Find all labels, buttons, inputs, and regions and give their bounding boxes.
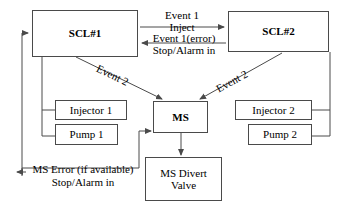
node-ms-divert-valve-label-line2: Valve [171,179,196,191]
edge-label-ms-error: MS Error (if available) [26,163,140,175]
node-ms-divert-valve-label-line1: MS Divert [160,167,207,179]
node-injector2[interactable]: Injector 2 [235,100,312,120]
edge-label-stop-alarm-in-top: Stop/Alarm in [144,44,224,56]
connector-left-bus-to-scl1 [22,33,28,172]
node-ms-divert-valve[interactable]: MS Divert Valve [145,157,222,201]
node-injector2-label: Injector 2 [252,104,294,116]
node-injector1-label: Injector 1 [70,104,112,116]
edge-label-stop-alarm-in-bottom: Stop/Alarm in [26,176,140,188]
edge-label-event1-error: Event 1(error) [144,32,224,44]
node-pump1[interactable]: Pump 1 [55,124,118,145]
node-scl2-label: SCL#2 [262,25,294,37]
node-pump2[interactable]: Pump 2 [248,124,312,145]
node-ms[interactable]: MS [153,101,208,133]
node-scl2[interactable]: SCL#2 [228,11,329,52]
node-scl1[interactable]: SCL#1 [32,10,138,57]
diagram-canvas: SCL#1 SCL#2 Injector 1 Pump 1 MS Injecto… [0,0,344,208]
node-scl1-label: SCL#1 [69,27,101,39]
node-pump1-label: Pump 1 [70,128,104,140]
node-ms-label: MS [172,111,189,123]
edge-label-event1: Event 1 [150,9,214,21]
node-pump2-label: Pump 2 [263,128,297,140]
node-injector1[interactable]: Injector 1 [55,100,127,120]
